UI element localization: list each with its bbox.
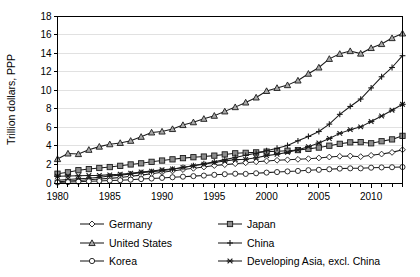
data-point-2002 <box>284 82 290 88</box>
legend-label: China <box>247 237 275 249</box>
data-point-1998 <box>243 99 249 105</box>
data-point-1987 <box>128 162 133 167</box>
x-tick-label-2000: 2000 <box>255 191 278 202</box>
data-point-2010 <box>368 141 373 146</box>
data-point-1990 <box>159 175 164 180</box>
data-point-2003 <box>295 138 301 144</box>
legend-item-japan[interactable]: Japan <box>218 218 276 230</box>
data-point-1988 <box>138 134 144 140</box>
data-point-1985 <box>107 164 112 169</box>
chart-legend: GermanyJapanUnited StatesChinaKoreaDevel… <box>80 218 380 267</box>
data-point-2000 <box>264 158 270 164</box>
data-point-2011 <box>378 114 384 119</box>
data-point-2002 <box>285 143 291 149</box>
y-tick-label-14: 14 <box>40 48 52 59</box>
data-point-2010 <box>368 119 374 124</box>
y-tick-label-10: 10 <box>40 85 52 96</box>
legend-label: Japan <box>247 218 276 230</box>
legend-label: United States <box>109 237 172 249</box>
x-tick-label-1980: 1980 <box>46 191 69 202</box>
x-tick-label-1985: 1985 <box>99 191 122 202</box>
data-point-2007 <box>337 131 343 136</box>
data-point-1994 <box>201 173 206 178</box>
data-point-2007 <box>337 166 342 171</box>
data-point-2004 <box>306 156 312 162</box>
legend-item-korea[interactable]: Korea <box>80 255 137 267</box>
legend-label: Germany <box>109 218 153 230</box>
data-point-2007 <box>337 153 343 159</box>
data-point-2009 <box>357 125 363 130</box>
y-tick-label-0: 0 <box>46 178 52 189</box>
data-point-1986 <box>118 178 123 183</box>
data-point-2003 <box>295 156 301 162</box>
data-point-1985 <box>107 178 112 183</box>
x-tick-label-2010: 2010 <box>360 191 383 202</box>
data-point-1986 <box>118 163 123 168</box>
legend-item-developing-asia-excl-china[interactable]: Developing Asia, excl. China <box>218 255 380 267</box>
data-point-2011 <box>378 41 384 47</box>
x-tick-label-1995: 1995 <box>203 191 226 202</box>
data-point-2009 <box>358 140 363 145</box>
data-point-1993 <box>191 174 196 179</box>
data-point-1995 <box>211 113 217 119</box>
data-point-2003 <box>295 77 301 83</box>
data-point-1994 <box>201 154 206 159</box>
data-point-1984 <box>97 165 102 170</box>
data-point-2010 <box>368 152 374 158</box>
y-tick-label-12: 12 <box>40 66 52 77</box>
y-axis-title-text: Trillion dollars, PPP <box>5 54 17 145</box>
data-point-1997 <box>232 104 238 110</box>
data-point-2008 <box>347 127 353 132</box>
data-point-2011 <box>379 139 384 144</box>
x-axis-tick-labels: 1980198519901995200020052010 <box>46 191 382 202</box>
data-point-1988 <box>139 177 144 182</box>
chart-container: 024681012141618 198019851990199520002005… <box>0 0 420 277</box>
data-point-1993 <box>191 155 196 160</box>
data-point-1998 <box>243 171 248 176</box>
tick-marks <box>54 16 403 188</box>
legend-item-united-states[interactable]: United States <box>80 237 172 249</box>
data-point-2012 <box>389 165 394 170</box>
data-point-1992 <box>180 174 185 179</box>
data-point-2006 <box>327 143 332 148</box>
data-point-2006 <box>327 167 332 172</box>
data-point-2008 <box>348 166 353 171</box>
legend-label: Developing Asia, excl. China <box>247 255 380 267</box>
data-point-1988 <box>138 161 143 166</box>
data-point-1997 <box>233 171 238 176</box>
data-point-2000 <box>264 170 269 175</box>
data-point-2004 <box>306 134 312 140</box>
data-point-1996 <box>222 152 227 157</box>
legend-item-china[interactable]: China <box>218 237 275 249</box>
series-china <box>55 53 406 183</box>
y-tick-label-18: 18 <box>40 11 52 22</box>
data-point-1992 <box>180 155 185 160</box>
data-point-2005 <box>316 155 322 161</box>
data-point-2001 <box>274 170 279 175</box>
data-point-1989 <box>149 176 154 181</box>
data-point-2006 <box>326 56 332 62</box>
data-point-1995 <box>212 172 217 177</box>
data-point-1995 <box>212 153 217 158</box>
legend-marker-circle-open <box>89 258 94 263</box>
data-point-2007 <box>337 141 342 146</box>
legend-marker-cross <box>227 259 234 264</box>
y-tick-label-16: 16 <box>40 29 52 40</box>
data-point-2005 <box>316 167 321 172</box>
legend-marker-plus <box>227 240 233 246</box>
data-point-2008 <box>348 140 353 145</box>
data-point-2006 <box>326 154 332 160</box>
data-point-2002 <box>285 169 290 174</box>
y-axis-title: Trillion dollars, PPP <box>5 54 17 145</box>
data-point-1991 <box>170 157 175 162</box>
data-point-1991 <box>170 175 175 180</box>
data-point-1996 <box>222 172 227 177</box>
data-point-2004 <box>306 168 311 173</box>
series-line <box>58 56 403 181</box>
data-point-2010 <box>369 165 374 170</box>
x-tick-label-2005: 2005 <box>308 191 331 202</box>
y-axis-tick-labels: 024681012141618 <box>40 11 52 189</box>
data-point-1999 <box>254 171 259 176</box>
legend-item-germany[interactable]: Germany <box>80 218 153 230</box>
legend-marker-square-filled <box>227 221 232 226</box>
